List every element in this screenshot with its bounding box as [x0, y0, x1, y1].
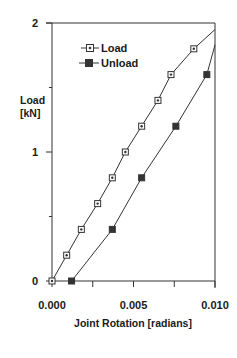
data-point-load: [139, 123, 145, 129]
x-axis-title: Joint Rotation [radians]: [74, 317, 192, 329]
data-point-unload: [139, 175, 145, 181]
legend: Load Unload: [79, 42, 138, 69]
x-tick-label: 0.005: [120, 299, 148, 311]
y-axis-title: Load [kN]: [20, 94, 45, 119]
data-point-load: [122, 149, 128, 155]
legend-item-load: Load: [81, 42, 127, 54]
data-point-load: [168, 72, 174, 78]
y-tick-label: 1: [32, 146, 38, 158]
data-point-load: [95, 201, 101, 207]
data-point-load: [49, 278, 55, 284]
x-tick-label: 0.000: [38, 299, 66, 311]
y-tick-label: 2: [32, 17, 38, 29]
x-ticks: [52, 281, 215, 287]
y-ticks: [46, 23, 52, 281]
filled-square-icon: [86, 60, 93, 67]
legend-item-unload: Unload: [79, 57, 138, 69]
series-line-unload: [72, 45, 215, 281]
y-tick-labels: 012: [32, 17, 38, 287]
data-point-unload: [173, 123, 179, 129]
y-axis-title-line2: [kN]: [20, 107, 40, 119]
data-point-load: [64, 252, 70, 258]
x-tick-labels: 0.0000.0050.010: [38, 299, 229, 311]
data-point-unload: [69, 278, 75, 284]
series-markers: [49, 46, 210, 284]
data-point-load: [78, 226, 84, 232]
data-point-load: [155, 97, 161, 103]
x-tick-label: 0.010: [201, 299, 229, 311]
data-point-load: [109, 175, 115, 181]
legend-label-load: Load: [101, 42, 127, 54]
data-point-unload: [204, 72, 210, 78]
data-point-load: [191, 46, 197, 52]
data-point-unload: [109, 226, 115, 232]
open-square-dot-icon: [87, 45, 94, 52]
y-axis-title-line1: Load: [20, 94, 45, 106]
y-tick-label: 0: [32, 275, 38, 287]
legend-label-unload: Unload: [101, 57, 138, 69]
load-rotation-chart: 012 0.0000.0050.010 Load [kN] Joint Rota…: [0, 0, 237, 358]
